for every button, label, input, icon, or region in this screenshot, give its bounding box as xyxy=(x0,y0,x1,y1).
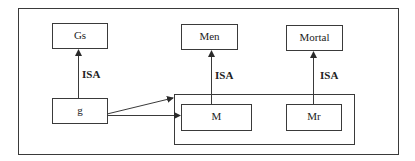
node-gs-label: Gs xyxy=(74,29,86,41)
node-men-label: Men xyxy=(199,30,220,42)
node-g-label: g xyxy=(77,104,83,116)
node-gs: Gs xyxy=(53,24,108,49)
node-mortal-label: Mortal xyxy=(300,31,330,43)
edge-label-isa: ISA xyxy=(82,68,100,80)
edge-m-isa-men: ISA xyxy=(212,51,234,104)
node-men: Men xyxy=(182,25,238,50)
node-mr: Mr xyxy=(287,105,342,131)
edge-label-isa: ISA xyxy=(320,69,338,81)
edge-mr-isa-mortal: ISA xyxy=(314,52,339,104)
node-mortal: Mortal xyxy=(287,26,343,51)
isa-diagram: Gs Men Mortal g M Mr ISA ISA ISA xyxy=(0,0,415,161)
node-mr-label: Mr xyxy=(307,110,321,122)
edge-label-isa: ISA xyxy=(215,69,233,81)
node-m: M xyxy=(182,105,252,131)
node-m-label: M xyxy=(212,110,222,122)
node-g: g xyxy=(53,99,108,124)
edge-g-to-group xyxy=(107,98,173,114)
edge-g-isa-gs: ISA xyxy=(79,50,101,98)
